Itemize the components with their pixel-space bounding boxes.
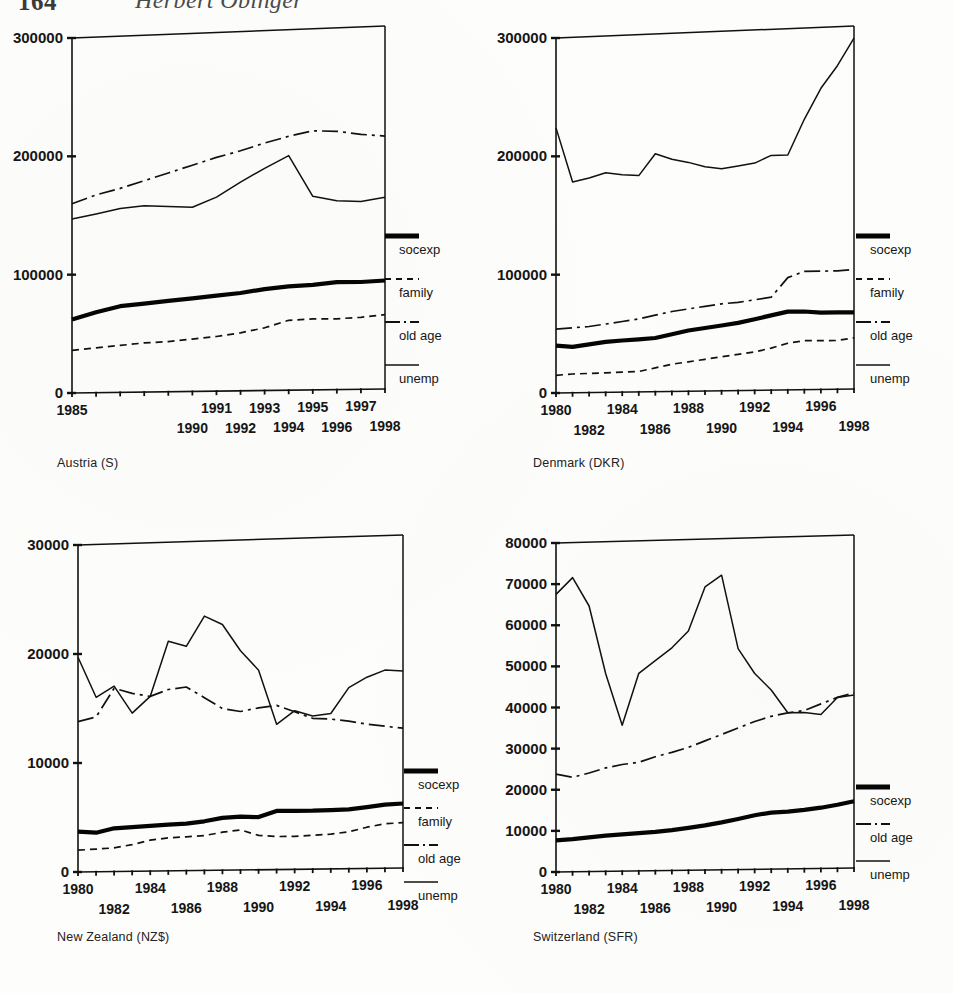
x-tick-label: 1992 [279, 878, 310, 894]
socexp-series [72, 281, 385, 320]
x-tick-label: 1990 [243, 899, 274, 915]
x-tick-label: 1994 [273, 419, 304, 435]
x-tick-label: 1982 [574, 901, 605, 917]
unemp-series [78, 616, 403, 724]
legend-label-family: family [399, 285, 433, 300]
legend-label-old-age: old age [399, 328, 442, 343]
unemp-series [72, 156, 385, 220]
x-tick-label: 1980 [540, 881, 571, 897]
austria-svg-wrap: 0100000200000300000198519911993199519971… [0, 20, 476, 440]
x-tick-label: 1994 [315, 898, 346, 914]
chart-panel-newzealand: 0100002000030000198019841988199219961982… [0, 525, 476, 993]
y-tick-label: 0 [539, 384, 547, 401]
caption-switzerland: Switzerland (SFR) [533, 930, 638, 944]
newzealand-chart: 0100002000030000198019841988199219961982… [0, 525, 476, 925]
y-tick-label: 300000 [497, 29, 547, 46]
y-tick-label: 80000 [505, 534, 547, 551]
legend-label-socexp: socexp [418, 777, 459, 792]
x-tick-label: 1986 [640, 900, 671, 916]
caption-denmark: Denmark (DKR) [533, 456, 625, 470]
x-tick-label: 1995 [297, 399, 328, 415]
x-tick-label: 1996 [805, 398, 836, 414]
x-tick-label: 1984 [607, 401, 638, 417]
y-tick-label: 50000 [505, 657, 547, 674]
unemp-series [556, 575, 854, 725]
legend-label-old-age: old age [870, 830, 913, 845]
legend-label-socexp: socexp [870, 793, 911, 808]
legend-label-socexp: socexp [399, 242, 440, 257]
legend-label-old-age: old age [418, 851, 461, 866]
y-tick-label: 10000 [27, 754, 69, 771]
caption-newzealand: New Zealand (NZ$) [57, 930, 169, 944]
x-tick-label: 1980 [540, 402, 571, 418]
y-tick-label: 30000 [27, 536, 69, 553]
x-tick-label: 1990 [706, 420, 737, 436]
x-tick-label: 1988 [673, 879, 704, 895]
old-age-series [78, 687, 403, 728]
y-tick-label: 200000 [13, 147, 63, 164]
austria-chart: 0100000200000300000198519911993199519971… [0, 20, 476, 440]
page-running-head: 164 Herbert Obinger [0, 0, 953, 18]
x-tick-label: 1998 [387, 897, 418, 913]
x-tick-label: 1986 [640, 421, 671, 437]
x-tick-label: 1996 [805, 877, 836, 893]
y-tick-label: 0 [55, 384, 63, 401]
x-tick-label: 1988 [673, 400, 704, 416]
x-tick-label: 1992 [739, 399, 770, 415]
x-tick-label: 1991 [201, 400, 232, 416]
legend-label-unemp: unemp [399, 371, 439, 386]
old-age-series [72, 131, 385, 204]
page-number: 164 [18, 0, 57, 16]
legend-label-old-age: old age [870, 328, 913, 343]
caption-austria: Austria (S) [57, 456, 118, 470]
x-tick-label: 1992 [739, 878, 770, 894]
y-tick-label: 200000 [497, 147, 547, 164]
y-tick-label: 300000 [13, 29, 63, 46]
x-tick-label: 1990 [177, 420, 208, 436]
chart-panel-denmark: 0100000200000300000198019841988199219961… [476, 20, 953, 490]
x-tick-label: 1997 [345, 398, 376, 414]
x-tick-label: 1988 [207, 879, 238, 895]
chart-panel-switzerland: 0100002000030000400005000060000700008000… [476, 525, 953, 993]
y-tick-label: 60000 [505, 616, 547, 633]
y-tick-label: 100000 [497, 266, 547, 283]
y-tick-label: 10000 [505, 822, 547, 839]
x-axis-line [72, 389, 385, 393]
socexp-series [556, 801, 854, 840]
x-tick-label: 1994 [772, 898, 803, 914]
old-age-series [556, 693, 854, 777]
y-tick-label: 20000 [27, 645, 69, 662]
y-tick-label: 70000 [505, 575, 547, 592]
x-tick-label: 1982 [574, 422, 605, 438]
legend-label-family: family [418, 814, 452, 829]
y-tick-label: 20000 [505, 781, 547, 798]
x-tick-label: 1984 [135, 880, 166, 896]
x-tick-label: 1990 [706, 899, 737, 915]
legend-label-unemp: unemp [870, 867, 910, 882]
y-tick-label: 100000 [13, 266, 63, 283]
x-tick-label: 1980 [62, 881, 93, 897]
chart-panel-austria: 0100000200000300000198519911993199519971… [0, 20, 476, 490]
x-tick-label: 1996 [321, 419, 352, 435]
switzerland-chart: 0100002000030000400005000060000700008000… [476, 525, 953, 925]
old-age-series [556, 269, 854, 329]
x-tick-label: 1992 [225, 420, 256, 436]
newzealand-svg-wrap: 0100002000030000198019841988199219961982… [0, 525, 476, 925]
running-head-author: Herbert Obinger [135, 0, 303, 14]
legend-label-socexp: socexp [870, 242, 911, 257]
x-tick-label: 1993 [249, 400, 280, 416]
x-tick-label: 1984 [607, 880, 638, 896]
family-series [72, 315, 385, 351]
x-tick-label: 1998 [369, 418, 400, 434]
denmark-chart: 0100000200000300000198019841988199219961… [476, 20, 953, 440]
x-tick-label: 1996 [351, 877, 382, 893]
x-tick-label: 1998 [838, 418, 869, 434]
x-tick-label: 1998 [838, 897, 869, 913]
denmark-svg-wrap: 0100000200000300000198019841988199219961… [476, 20, 953, 440]
y-tick-label: 0 [61, 863, 69, 880]
y-tick-label: 0 [539, 863, 547, 880]
x-tick-label: 1985 [56, 402, 87, 418]
legend-label-unemp: unemp [870, 371, 910, 386]
unemp-series [556, 38, 854, 182]
socexp-series [78, 804, 403, 833]
